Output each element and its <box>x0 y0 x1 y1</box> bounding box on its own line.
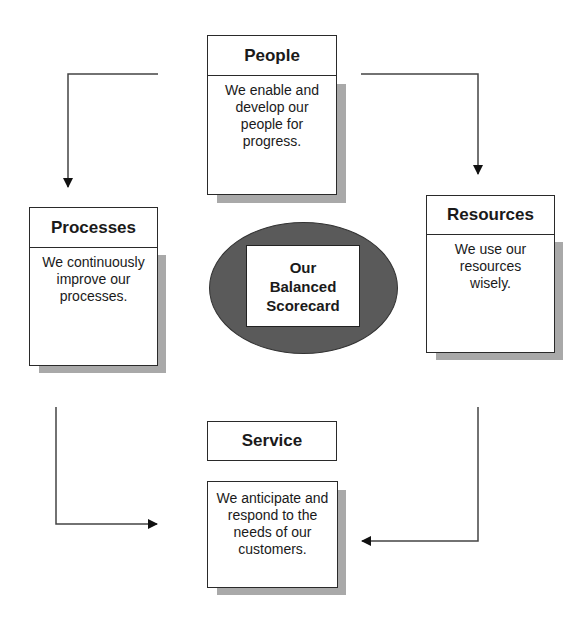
center-label-line-3: Scorecard <box>266 296 339 315</box>
people-description: We enable and develop our people for pro… <box>208 76 336 150</box>
arrow-people-to-processes <box>68 74 158 187</box>
arrow-people-to-resources <box>361 74 478 174</box>
people-title: People <box>208 36 336 76</box>
processes-description: We continuously improve our processes. <box>30 248 157 305</box>
center-label-line-1: Our <box>266 258 339 277</box>
service-box: We anticipate and respond to the needs o… <box>207 481 338 588</box>
resources-title: Resources <box>427 196 554 235</box>
resources-box: Resources We use our resources wisely. <box>426 195 555 353</box>
processes-title: Processes <box>30 208 157 248</box>
balanced-scorecard-diagram: People We enable and develop our people … <box>0 0 583 621</box>
people-box: People We enable and develop our people … <box>207 35 337 195</box>
service-description: We anticipate and respond to the needs o… <box>208 482 337 558</box>
service-title: Service <box>242 431 303 451</box>
resources-description: We use our resources wisely. <box>427 235 554 292</box>
center-label-line-2: Balanced <box>266 277 339 296</box>
center-label: Our Balanced Scorecard <box>266 258 339 315</box>
service-title-box: Service <box>207 421 337 461</box>
center-label-box: Our Balanced Scorecard <box>246 245 360 327</box>
arrow-resources-to-service <box>362 407 478 541</box>
arrow-processes-to-service <box>56 407 157 524</box>
processes-box: Processes We continuously improve our pr… <box>29 207 158 366</box>
